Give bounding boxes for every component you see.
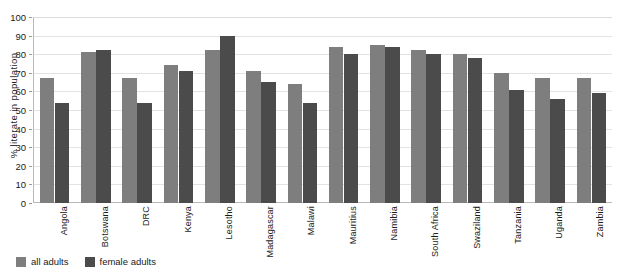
y-axis-tick-label: 30 (0, 142, 26, 153)
x-axis-tick-label: Angola (59, 206, 69, 235)
literacy-bar-chart: % literate in population 010203040506070… (0, 0, 617, 277)
bar-female-adults (385, 47, 400, 203)
legend-label: all adults (31, 256, 69, 267)
bar-group (75, 17, 116, 203)
x-axis-tick-label: Kenya (183, 206, 193, 233)
bar-female-adults (303, 103, 318, 203)
bar-group (282, 17, 323, 203)
bar-female-adults (96, 50, 111, 203)
x-axis-tick-label: Mauritius (348, 206, 358, 244)
y-axis-tick-label: 0 (0, 198, 26, 209)
legend-swatch (16, 257, 26, 267)
y-axis-tick-mark (29, 203, 32, 204)
x-axis-tick-labels: AngolaBotswanaDRCKenyaLesothoMadagascarM… (34, 206, 612, 252)
bar-all-adults (122, 78, 137, 203)
y-axis-tick-mark (29, 36, 32, 37)
bar-group (158, 17, 199, 203)
bar-all-adults (329, 47, 344, 203)
bar-female-adults (550, 99, 565, 203)
bar-female-adults (592, 93, 607, 203)
bar-group (571, 17, 612, 203)
x-axis-tick-label: DRC (141, 206, 151, 226)
bar-all-adults (453, 54, 468, 203)
bar-group (240, 17, 281, 203)
legend-swatch (85, 257, 95, 267)
bar-female-adults (509, 90, 524, 203)
y-axis-tick-mark (29, 147, 32, 148)
bar-all-adults (370, 45, 385, 203)
bar-female-adults (55, 103, 70, 203)
bar-group (364, 17, 405, 203)
y-axis-tick-mark (29, 184, 32, 185)
y-axis-tick-label: 60 (0, 86, 26, 97)
bar-all-adults (535, 78, 550, 203)
x-axis-tick-label: Swaziland (472, 206, 482, 249)
bar-group (199, 17, 240, 203)
bar-group (117, 17, 158, 203)
y-axis-tick-label: 40 (0, 123, 26, 134)
y-axis-tick-mark (29, 17, 32, 18)
chart-legend: all adultsfemale adults (16, 256, 165, 267)
legend-item[interactable]: all adults (16, 256, 69, 267)
bar-group (34, 17, 75, 203)
y-axis-tick-label: 10 (0, 179, 26, 190)
y-axis-tick-label: 90 (0, 30, 26, 41)
bar-all-adults (494, 73, 509, 203)
bar-all-adults (246, 71, 261, 203)
y-axis-tick-label: 20 (0, 160, 26, 171)
bar-all-adults (411, 50, 426, 203)
x-axis-tick-label: Botswana (100, 206, 110, 247)
y-axis-tick-mark (29, 166, 32, 167)
bar-female-adults (137, 103, 152, 203)
x-axis-tick-label: Malawi (306, 206, 316, 235)
legend-label: female adults (100, 256, 157, 267)
bar-groups (34, 17, 612, 203)
y-axis-tick-label: 80 (0, 49, 26, 60)
bar-group (406, 17, 447, 203)
x-axis-tick-label: Uganda (554, 206, 564, 239)
bar-all-adults (164, 65, 179, 203)
bar-group (488, 17, 529, 203)
x-axis-tick-label: Namibia (389, 206, 399, 240)
y-axis-tick-label: 100 (0, 12, 26, 23)
bar-group (529, 17, 570, 203)
y-axis-tick-mark (29, 110, 32, 111)
bar-group (447, 17, 488, 203)
y-axis-tick-mark (29, 91, 32, 92)
bar-female-adults (261, 82, 276, 203)
legend-item[interactable]: female adults (85, 256, 157, 267)
x-axis-tick-label: Zambia (595, 206, 605, 237)
y-axis-tick-label: 70 (0, 67, 26, 78)
bar-all-adults (577, 78, 592, 203)
y-axis-tick-mark (29, 54, 32, 55)
bar-all-adults (81, 52, 96, 203)
bar-all-adults (40, 78, 55, 203)
y-axis-tick-mark (29, 73, 32, 74)
y-axis-tick-label: 50 (0, 105, 26, 116)
x-axis-tick-label: Tanzania (513, 206, 523, 244)
y-axis-tick-labels: 0102030405060708090100 (0, 0, 30, 203)
x-axis-tick-label: Madagascar (265, 206, 275, 258)
bar-all-adults (205, 50, 220, 203)
bar-female-adults (179, 71, 194, 203)
x-axis-tick-label: South Africa (430, 206, 440, 257)
bar-group (323, 17, 364, 203)
bar-female-adults (344, 54, 359, 203)
bar-female-adults (426, 54, 441, 203)
bar-all-adults (288, 84, 303, 203)
bar-female-adults (220, 36, 235, 203)
bar-female-adults (468, 58, 483, 203)
x-axis-tick-label: Lesotho (224, 206, 234, 239)
y-axis-tick-mark (29, 129, 32, 130)
